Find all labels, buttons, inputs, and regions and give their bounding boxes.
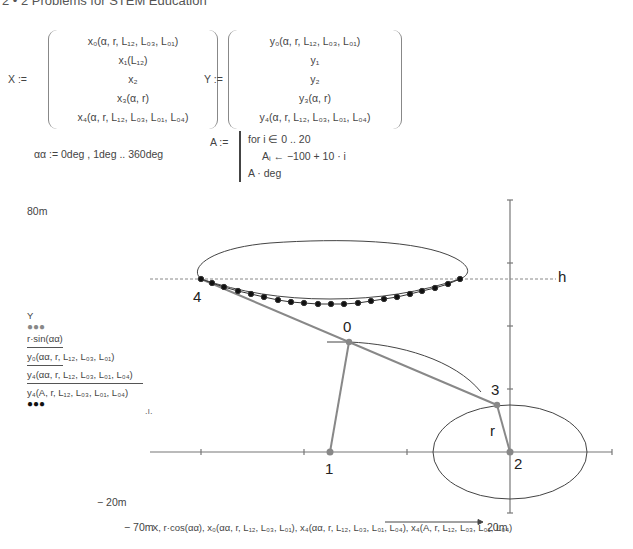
crank-label-r: r (490, 422, 495, 439)
point-label-1: 1 (325, 460, 333, 477)
point0-path-arc (327, 342, 481, 392)
height-label-h: h (558, 268, 566, 285)
point-label-0: 0 (343, 318, 351, 335)
joint-1 (327, 449, 334, 456)
link-1-0 (330, 342, 349, 452)
y4-A-series (198, 276, 462, 306)
point-label-4: 4 (193, 288, 201, 305)
joint-points (327, 339, 514, 456)
joint-3 (494, 402, 500, 408)
svg-text:.ı.: .ı. (145, 406, 153, 416)
point-label-3: 3 (491, 381, 499, 398)
link-3-2 (497, 405, 510, 452)
plot-canvas: .ı. (0, 0, 633, 549)
joint-2 (507, 449, 514, 456)
joint-0 (346, 339, 352, 345)
point-label-2: 2 (514, 455, 522, 472)
x-expression-arrow (385, 520, 483, 525)
